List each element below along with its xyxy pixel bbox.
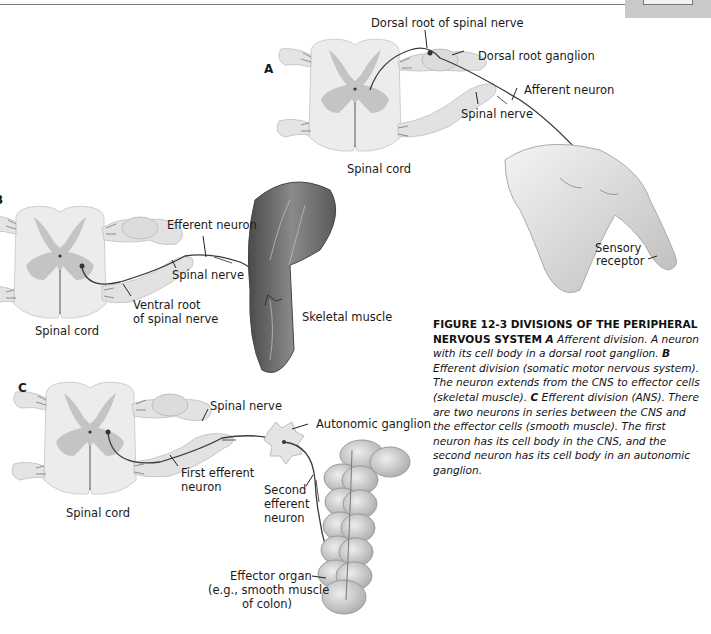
label-second-efferent-1: Second xyxy=(264,484,306,497)
label-afferent-neuron: Afferent neuron xyxy=(524,84,614,97)
label-skeletal-muscle: Skeletal muscle xyxy=(302,311,392,324)
label-dorsal-root: Dorsal root of spinal nerve xyxy=(371,17,524,30)
caption-text-c: Efferent division (ANS). There are two n… xyxy=(433,391,699,476)
label-effector-organ-2: (e.g., smooth muscle xyxy=(208,584,329,597)
label-second-efferent-3: neuron xyxy=(264,512,304,525)
label-spinal-nerve-b: Spinal nerve xyxy=(172,269,244,282)
caption-key-b: B xyxy=(662,347,670,359)
label-ventral-root-1: Ventral root xyxy=(133,299,201,312)
label-efferent-neuron: Efferent neuron xyxy=(167,219,257,232)
label-effector-organ-3: of colon) xyxy=(242,598,292,611)
caption-key-a: A xyxy=(546,333,554,345)
label-spinal-nerve-a: Spinal nerve xyxy=(461,108,533,121)
label-first-efferent-2: neuron xyxy=(181,481,221,494)
label-effector-organ-1: Effector organ xyxy=(230,570,312,583)
label-spinal-nerve-c: Spinal nerve xyxy=(210,400,282,413)
panel-b-illustration xyxy=(0,182,336,373)
label-ventral-root-2: of spinal nerve xyxy=(133,313,218,326)
caption-key-c: C xyxy=(530,391,538,403)
label-autonomic-ganglion: Autonomic ganglion xyxy=(316,418,431,431)
panel-c-letter: C xyxy=(18,381,27,395)
label-spinal-cord-b: Spinal cord xyxy=(35,325,99,338)
figure-caption: FIGURE 12-3 DIVISIONS OF THE PERIPHERAL … xyxy=(433,317,703,478)
label-spinal-cord-c: Spinal cord xyxy=(66,507,130,520)
label-spinal-cord-a: Spinal cord xyxy=(347,163,411,176)
label-sensory-receptor-2: receptor xyxy=(596,255,645,268)
label-second-efferent-2: efferent xyxy=(264,498,309,511)
panel-a-letter: A xyxy=(264,62,273,76)
label-dorsal-root-ganglion: Dorsal root ganglion xyxy=(478,50,595,63)
panel-b-letter: B xyxy=(0,193,3,207)
label-first-efferent-1: First efferent xyxy=(181,467,254,480)
